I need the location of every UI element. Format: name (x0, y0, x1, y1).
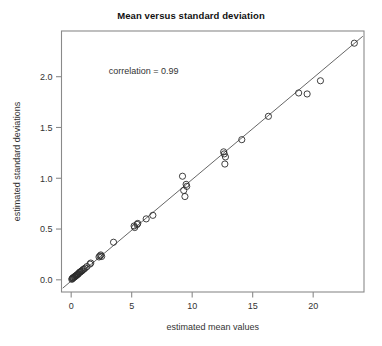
data-point (304, 91, 310, 97)
x-tick-label: 10 (187, 301, 197, 311)
y-tick-label: 1.0 (40, 174, 53, 184)
y-axis-title: estimated standard deviations (12, 101, 22, 221)
data-point (222, 161, 228, 167)
data-point (182, 193, 188, 199)
data-point (143, 216, 149, 222)
plot-frame (62, 31, 365, 292)
scatter-plot: 051015200.00.51.01.52.0estimated mean va… (0, 0, 382, 346)
correlation-annotation: correlation = 0.99 (109, 66, 179, 76)
data-point (296, 90, 302, 96)
y-tick-label: 0.0 (40, 275, 53, 285)
x-tick-label: 15 (248, 301, 258, 311)
y-tick-label: 1.5 (40, 123, 53, 133)
data-point (265, 113, 271, 119)
x-axis-title: estimated mean values (166, 322, 259, 332)
data-point (181, 187, 187, 193)
x-tick-label: 0 (69, 301, 74, 311)
chart-figure: Mean versus standard deviation 051015200… (0, 0, 382, 346)
y-tick-label: 2.0 (40, 72, 53, 82)
y-tick-label: 0.5 (40, 224, 53, 234)
data-point (150, 212, 156, 218)
data-point (110, 239, 116, 245)
data-point (317, 78, 323, 84)
data-point (179, 173, 185, 179)
x-tick-label: 5 (129, 301, 134, 311)
x-tick-label: 20 (308, 301, 318, 311)
